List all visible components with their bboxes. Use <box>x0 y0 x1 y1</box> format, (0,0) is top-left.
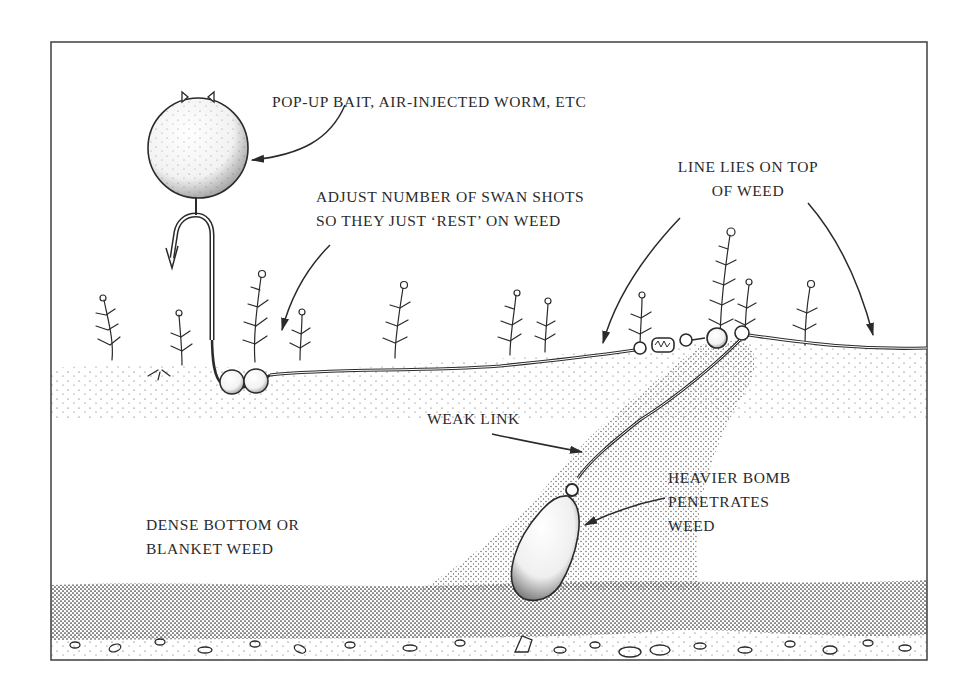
label-line: BLANKET WEED <box>146 537 299 561</box>
label-line: SO THEY JUST ‘REST’ ON WEED <box>316 209 584 233</box>
dense-bottom-band <box>51 580 927 640</box>
label-pop-up-bait: POP-UP BAIT, AIR-INJECTED WORM, ETC <box>272 90 586 114</box>
label-line: POP-UP BAIT, AIR-INJECTED WORM, ETC <box>272 90 586 114</box>
arrow-swan-shots <box>282 245 330 330</box>
label-line: HEAVIER BOMB <box>668 466 791 490</box>
diagram: POP-UP BAIT, AIR-INJECTED WORM, ETC ADJU… <box>0 0 974 691</box>
label-line: DENSE BOTTOM OR <box>146 513 299 537</box>
bead <box>707 328 727 348</box>
arrow-weak-link <box>492 434 582 452</box>
label-heavier-bomb: HEAVIER BOMB PENETRATES WEED <box>668 466 791 538</box>
swan-shot-2 <box>244 369 268 393</box>
label-line: OF WEED <box>662 179 834 203</box>
label-line: LINE LIES ON TOP <box>662 155 834 179</box>
hook <box>172 215 212 340</box>
label-line: PENETRATES <box>668 490 791 514</box>
label-line-on-weed: LINE LIES ON TOP OF WEED <box>662 155 834 203</box>
arrow-line-right <box>808 203 873 335</box>
label-line: WEAK LINK <box>427 407 520 431</box>
label-dense-bottom: DENSE BOTTOM OR BLANKET WEED <box>146 513 299 561</box>
swan-shot-1 <box>220 370 244 394</box>
label-swan-shots: ADJUST NUMBER OF SWAN SHOTS SO THEY JUST… <box>316 185 584 233</box>
label-weak-link: WEAK LINK <box>427 407 520 431</box>
gravel-bottom <box>51 632 927 660</box>
label-line: WEED <box>668 514 791 538</box>
label-line: ADJUST NUMBER OF SWAN SHOTS <box>316 185 584 209</box>
